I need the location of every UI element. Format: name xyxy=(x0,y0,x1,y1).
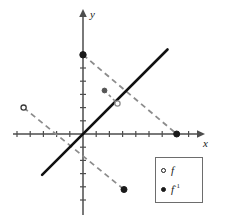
filled-circle-marker-icon xyxy=(161,187,166,192)
legend-entry-f: f xyxy=(161,164,174,176)
point-f-midpoint xyxy=(115,101,120,106)
point-f-inverse-x-intercept xyxy=(174,131,180,137)
open-circle-marker-icon xyxy=(161,168,166,173)
point-f-left-endpoint xyxy=(21,105,26,110)
function-f-inverse-dashed-line xyxy=(83,55,177,134)
x-axis-label: x xyxy=(203,138,208,149)
legend-entry-f-inverse: f-1 xyxy=(161,183,180,195)
y-axis-arrowhead xyxy=(79,9,87,17)
point-f-right-endpoint xyxy=(121,187,127,193)
legend-box: f f-1 xyxy=(155,157,203,203)
function-f-dashed-line xyxy=(24,108,124,190)
point-f-inverse-y-intercept xyxy=(80,52,86,58)
legend-label-f: f xyxy=(171,165,174,176)
legend-label-f-inverse-exponent: -1 xyxy=(174,182,180,190)
point-f-inverse-midpoint xyxy=(102,88,107,93)
y-axis-label: y xyxy=(90,9,95,20)
identity-line-y-equals-x xyxy=(42,50,167,175)
legend-label-f-inverse: f-1 xyxy=(171,183,180,195)
